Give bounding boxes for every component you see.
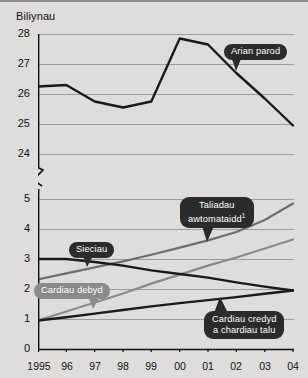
y-label-upper-28: 28 — [4, 27, 30, 39]
callout-cardiau-debyd-tail — [88, 296, 100, 309]
callout-taliadau-word1: Taliadau — [188, 200, 246, 211]
axis-break-icon — [38, 165, 43, 186]
y-label-lower-2: 2 — [4, 282, 30, 294]
callout-taliadau-awtomataidd: Taliadauawtomataidd1 — [180, 197, 254, 228]
plot-area: 28 27 26 25 24 5 4 3 2 1 0 1995 96 97 98… — [38, 34, 294, 352]
callout-cardiau-credyd-line2: a chardiau talu — [212, 325, 276, 336]
callout-taliadau-line1: Taliadauawtomataidd1 — [188, 200, 246, 224]
y-label-upper-26: 26 — [4, 87, 30, 99]
chart-title: Biliynau — [16, 10, 55, 22]
chart-svg — [38, 34, 294, 352]
callout-arian-parod: Arian parod — [224, 44, 287, 60]
callout-arian-parod-tail — [232, 59, 241, 71]
callout-sieciau-tail — [83, 256, 93, 267]
chart-figure: Biliynau — [0, 0, 308, 378]
callout-taliadau-word2: awtomataidd1 — [188, 211, 246, 225]
y-label-lower-1: 1 — [4, 312, 30, 324]
callout-sieciau-label: Sieciau — [76, 244, 107, 254]
y-label-upper-25: 25 — [4, 117, 30, 129]
callout-taliadau-footnote-marker: 1 — [242, 212, 246, 219]
y-label-lower-5: 5 — [4, 192, 30, 204]
y-label-upper-24: 24 — [4, 147, 30, 159]
x-label-04: 04 — [275, 360, 308, 372]
callout-arian-parod-label: Arian parod — [231, 46, 280, 56]
callout-cardiau-credyd-tail — [214, 297, 228, 313]
y-label-lower-3: 3 — [4, 252, 30, 264]
y-label-lower-0: 0 — [4, 342, 30, 354]
callout-taliadau-tail — [202, 226, 214, 242]
callout-cardiau-debyd-label: Cardiau debyd — [41, 285, 103, 295]
y-label-lower-4: 4 — [4, 222, 30, 234]
callout-cardiau-credyd: Cardiau credyd a chardiau talu — [204, 311, 284, 339]
callout-cardiau-credyd-line1: Cardiau credyd — [212, 314, 276, 325]
y-label-upper-27: 27 — [4, 57, 30, 69]
